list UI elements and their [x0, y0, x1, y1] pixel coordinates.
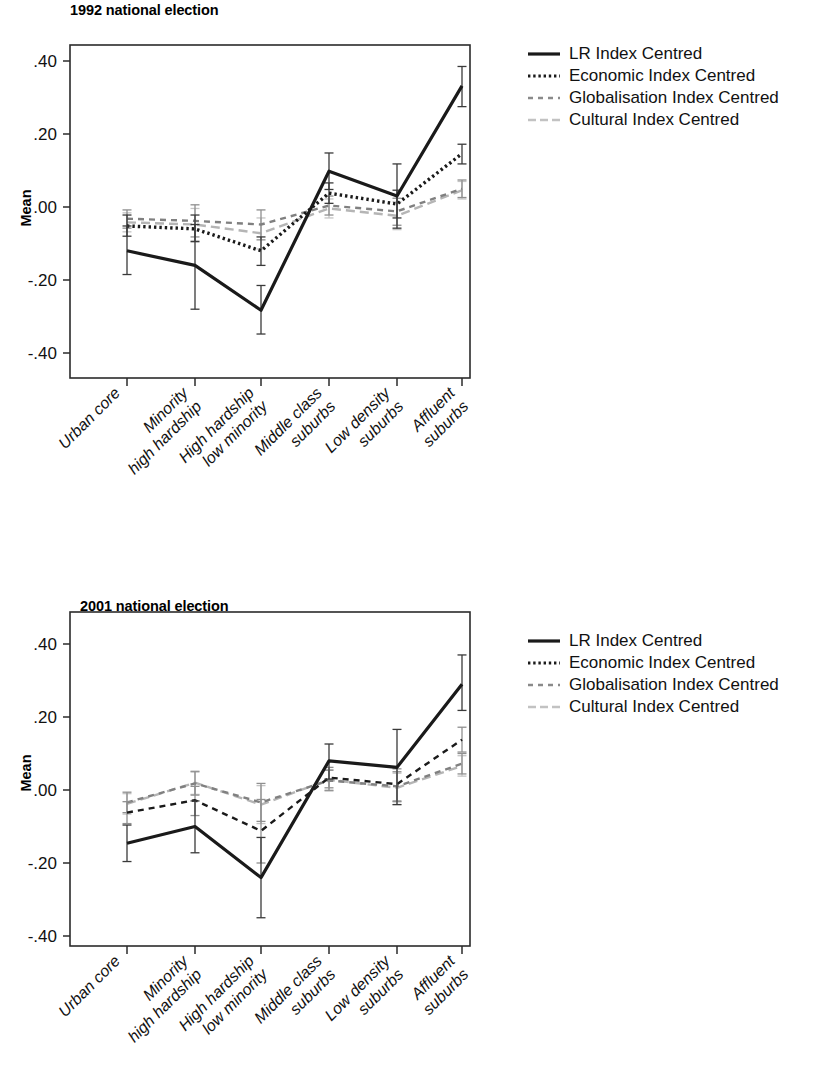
legend-item: Globalisation Index Centred: [527, 674, 779, 696]
legend-swatch-dotted-icon: [527, 656, 561, 670]
x-axis-tick-label: High hardshiplow minority: [175, 951, 271, 1047]
x-axis-tick-label: Urban core: [55, 952, 123, 1020]
x-axis-tick-label: Minorityhigh hardship: [111, 951, 205, 1045]
svg-text:Urban core: Urban core: [55, 952, 123, 1020]
x-axis-tick-label: Affluentsuburbs: [406, 384, 472, 450]
legend-label: Globalisation Index Centred: [569, 675, 779, 695]
y-axis-tick-label: -.40: [28, 344, 57, 363]
series-solid: [123, 655, 467, 918]
series-dashed: [123, 727, 467, 863]
chart-panel-1992: 1992 national election Mean -.40-.20.00.…: [0, 0, 821, 543]
legend-item: Globalisation Index Centred: [527, 87, 779, 109]
y-axis-tick-label: .00: [33, 198, 57, 217]
legend-item: Cultural Index Centred: [527, 696, 779, 718]
x-axis-tick-label: High hardshiplow minority: [175, 383, 271, 479]
series-dashed: [123, 754, 467, 822]
y-axis-tick-label: -.40: [28, 927, 57, 946]
y-axis-tick-label: .20: [33, 125, 57, 144]
legend-item: LR Index Centred: [527, 43, 779, 65]
x-axis-tick-label: Low densitysuburbs: [321, 383, 407, 469]
y-axis-tick-label: .40: [33, 52, 57, 71]
legend-label: Cultural Index Centred: [569, 697, 739, 717]
legend-2001: LR Index Centred Economic Index Centred …: [527, 630, 779, 718]
legend-item: LR Index Centred: [527, 630, 779, 652]
legend-item: Economic Index Centred: [527, 652, 779, 674]
legend-label: LR Index Centred: [569, 631, 702, 651]
svg-text:Urban core: Urban core: [55, 384, 123, 452]
x-axis-tick-label: Minorityhigh hardship: [111, 383, 205, 477]
legend-swatch-dashed-icon: [527, 678, 561, 692]
legend-item: Cultural Index Centred: [527, 109, 779, 131]
legend-1992: LR Index Centred Economic Index Centred …: [527, 43, 779, 131]
legend-label: LR Index Centred: [569, 44, 702, 64]
x-axis-tick-label: Low densitysuburbs: [321, 951, 407, 1037]
series-dotted: [123, 144, 467, 265]
legend-swatch-longdash-icon: [527, 113, 561, 127]
series-line: [127, 86, 462, 310]
series-solid: [123, 66, 467, 334]
y-axis-tick-label: -.20: [28, 854, 57, 873]
legend-item: Economic Index Centred: [527, 65, 779, 87]
x-axis-tick-label: Middle classsuburbs: [251, 952, 339, 1040]
legend-swatch-solid-icon: [527, 47, 561, 61]
legend-swatch-solid-icon: [527, 634, 561, 648]
legend-swatch-dotted-icon: [527, 69, 561, 83]
legend-swatch-longdash-icon: [527, 700, 561, 714]
plot-frame: [70, 612, 470, 946]
legend-swatch-dashed-icon: [527, 91, 561, 105]
legend-label: Globalisation Index Centred: [569, 88, 779, 108]
y-axis-tick-label: .20: [33, 708, 57, 727]
plot-frame: [70, 45, 470, 378]
y-axis-tick-label: .40: [33, 635, 57, 654]
x-axis-tick-label: Affluentsuburbs: [406, 952, 472, 1018]
legend-label: Economic Index Centred: [569, 66, 755, 86]
chart-panel-2001: 2001 national election Mean -.40-.20.00.…: [0, 570, 821, 1086]
y-axis-tick-label: -.20: [28, 271, 57, 290]
legend-label: Cultural Index Centred: [569, 110, 739, 130]
x-axis-tick-label: Middle classsuburbs: [251, 384, 339, 472]
series-line: [127, 684, 462, 877]
legend-label: Economic Index Centred: [569, 653, 755, 673]
y-axis-tick-label: .00: [33, 781, 57, 800]
series-line: [127, 766, 462, 805]
x-axis-tick-label: Urban core: [55, 384, 123, 452]
